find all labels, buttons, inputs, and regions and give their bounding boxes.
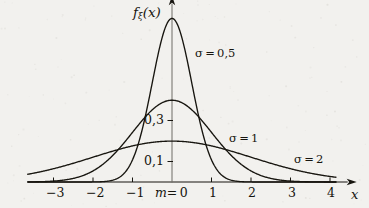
mean-symbol: m [155,185,167,200]
x-tick-label-3: 3 [288,187,296,200]
x-tick-label-origin-mean: m= 0 [155,187,188,200]
x-tick-label-4: 4 [327,187,335,200]
y-axis-title-arg: (x) [143,4,161,20]
x-tick-label-2: 2 [248,187,256,200]
x-tick-label-minus-3: −3 [46,187,64,200]
x-tick-label-1: 1 [209,187,217,200]
density-curve-sigma-0-5 [28,18,336,182]
y-tick-label-0-3: 0,3 [144,114,164,127]
x-tick-label-minus-2: −2 [86,187,104,200]
curves-group [28,18,336,182]
y-axis-title: fξ(x) [133,6,161,21]
density-curve-sigma-2 [28,141,336,177]
mean-value: = 0 [167,185,188,200]
y-tick-label-0-1: 0,1 [144,155,164,168]
curve-label-sigma-2: σ = 2 [294,154,323,166]
x-tick-label-minus-1: −1 [126,187,144,200]
x-axis-arrowhead [347,179,357,185]
curve-label-sigma-0-5: σ = 0,5 [195,48,235,60]
curve-label-sigma-1: σ = 1 [229,133,258,145]
x-axis-title: x [351,188,358,201]
gaussian-density-figure: fξ(x) x 0,3 0,1 −3 −2 −1 m= 0 1 2 3 4 σ … [0,0,369,208]
plot-canvas [0,0,369,208]
